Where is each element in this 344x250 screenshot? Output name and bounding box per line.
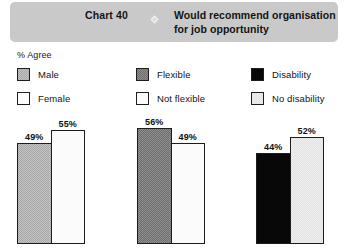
plot-area: 49% 55% 56% 49% 44% 52% <box>0 110 344 250</box>
bar-value-male: 49% <box>17 132 52 142</box>
bar-value-not-flexible: 49% <box>171 132 206 142</box>
bar-wrap-flexible: 56% <box>137 110 172 244</box>
legend-item-flexible: Flexible <box>136 68 205 81</box>
bar-female[interactable] <box>51 130 86 244</box>
bar-value-female: 55% <box>51 119 86 129</box>
bar-group-disability: 44% 52% <box>256 110 323 244</box>
bar-flexible[interactable] <box>137 128 172 244</box>
legend-swatch-male <box>17 68 30 81</box>
bar-wrap-no-disability: 52% <box>290 110 325 244</box>
legend-label-no-disability: No disability <box>272 93 325 104</box>
legend-label-not-flexible: Not flexible <box>157 93 205 104</box>
diamond-icon <box>150 15 159 24</box>
bar-not-flexible[interactable] <box>171 143 206 244</box>
legend-swatch-no-disability <box>251 92 264 105</box>
bar-wrap-not-flexible: 49% <box>171 110 206 244</box>
legend-swatch-flexible <box>136 68 149 81</box>
bar-no-disability[interactable] <box>290 137 325 244</box>
legend-swatch-disability <box>251 68 264 81</box>
legend-item-not-flexible: Not flexible <box>136 92 205 105</box>
bar-group-gender: 49% 55% <box>17 110 86 244</box>
bar-value-disability: 44% <box>256 142 291 152</box>
legend-group-disability: Disability No disability <box>251 68 325 116</box>
bar-value-flexible: 56% <box>137 117 172 127</box>
legend-label-flexible: Flexible <box>157 69 191 80</box>
legend-group-gender: Male Female <box>17 68 70 116</box>
bar-wrap-male: 49% <box>17 110 52 244</box>
legend-swatch-female <box>17 92 30 105</box>
bar-group-flexibility: 56% 49% <box>137 110 206 244</box>
legend-group-flexibility: Flexible Not flexible <box>136 68 205 116</box>
axis-caption-label: % Agree <box>17 50 52 60</box>
legend-label-male: Male <box>38 69 59 80</box>
bar-value-no-disability: 52% <box>290 126 325 136</box>
chart-number-label: Chart 40 <box>85 9 128 21</box>
chart-title: Would recommend organisation for job opp… <box>174 8 342 36</box>
bar-disability[interactable] <box>256 153 291 244</box>
legend-item-female: Female <box>17 92 70 105</box>
bar-male[interactable] <box>17 143 52 244</box>
legend-label-disability: Disability <box>272 69 311 80</box>
bar-wrap-female: 55% <box>51 110 86 244</box>
legend-item-disability: Disability <box>251 68 325 81</box>
legend-label-female: Female <box>38 93 70 104</box>
legend-swatch-not-flexible <box>136 92 149 105</box>
chart-header-banner: Chart 40 Would recommend organisation fo… <box>10 2 338 42</box>
legend-item-no-disability: No disability <box>251 92 325 105</box>
bar-wrap-disability: 44% <box>256 110 291 244</box>
legend-item-male: Male <box>17 68 70 81</box>
